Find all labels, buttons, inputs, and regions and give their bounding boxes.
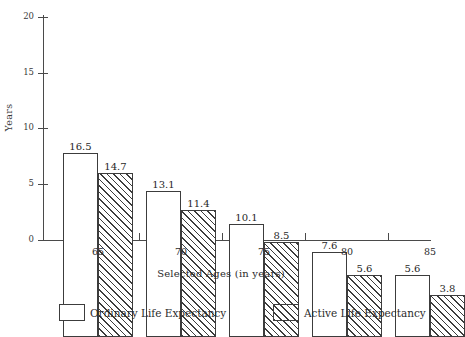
legend-entry-active: Active Life Expectancy: [273, 304, 426, 321]
y-axis-tick-label-0-text: 0: [10, 235, 34, 244]
y-axis-tick-label-10-text: 10: [10, 123, 34, 132]
x-axis-tick-3: [388, 233, 389, 241]
y-axis-tick-5: [38, 184, 48, 185]
x-axis-label-85: 85: [410, 247, 450, 257]
y-axis-tick-label-20-text: 20: [10, 12, 34, 21]
bar-value-active-85: 3.8: [440, 284, 456, 294]
x-axis-label-75: 75: [244, 247, 284, 257]
bar-value-active-65: 14.7: [104, 162, 126, 172]
bar-value-active-75: 8.5: [274, 231, 290, 241]
x-axis-title: Selected Ages (in years): [0, 268, 442, 279]
white-square-icon: [59, 304, 85, 321]
y-axis-tick-15: [38, 73, 48, 74]
bar-value-ordinary-65: 16.5: [69, 142, 91, 152]
legend-label-ordinary: Ordinary Life Expectancy: [90, 307, 226, 319]
bar-value-ordinary-70: 13.1: [152, 180, 174, 190]
y-axis-tick-label-15: 15: [6, 68, 34, 77]
y-axis-tick-label-0: 0: [6, 235, 34, 244]
y-axis-tick-label-20: 20: [6, 12, 34, 21]
x-axis-tick-0: [139, 233, 140, 241]
legend-entry-ordinary: Ordinary Life Expectancy: [59, 304, 226, 321]
y-axis-tick-20: [38, 17, 48, 18]
bar-value-ordinary-75: 10.1: [235, 213, 257, 223]
y-axis-tick-label-5: 5: [6, 179, 34, 188]
y-axis-tick-label-5-text: 5: [10, 179, 34, 188]
y-axis-title: Years: [3, 93, 14, 143]
x-axis-tick-2: [305, 233, 306, 241]
chart-legend: Ordinary Life Expectancy Active Life Exp…: [0, 300, 442, 330]
bar-value-active-70: 11.4: [187, 199, 209, 209]
y-axis-tick-10: [38, 128, 48, 129]
x-axis-label-65: 65: [78, 247, 118, 257]
y-axis-tick-label-15-text: 15: [10, 68, 34, 77]
x-axis-label-80: 80: [327, 247, 367, 257]
x-axis-tick-1: [222, 233, 223, 241]
legend-label-active: Active Life Expectancy: [304, 307, 426, 319]
x-axis-label-70: 70: [161, 247, 201, 257]
hatched-square-icon: [273, 304, 299, 321]
